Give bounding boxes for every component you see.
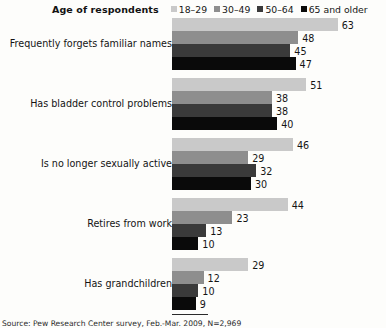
bar-group: Has grandchildren2912109 [0,258,386,310]
legend-label-65-and-older: 65 and older [309,4,368,15]
bar-group: Retires from work44231310 [0,198,386,250]
bar-row: 44 [172,198,386,211]
bar-value-label: 47 [300,58,312,69]
bar-value-label: 10 [202,238,214,249]
bar-row: 47 [172,57,386,70]
bar-value-label: 46 [297,139,309,150]
category-label: Has bladder control problems [30,99,172,110]
bar-row: 32 [172,164,386,177]
bar-50–64[interactable] [172,224,206,237]
bar-value-label: 38 [276,105,288,116]
legend-item-30-49: 30–49 [214,4,250,15]
bar-row: 48 [172,31,386,44]
bar-row: 63 [172,18,386,31]
bar-65-and-older[interactable] [172,297,196,310]
legend-title: Age of respondents [52,4,159,15]
bar-row: 46 [172,138,386,151]
bar-group-bars: 51383840 [172,78,386,130]
bar-value-label: 40 [281,118,293,129]
footer-rule [172,314,208,315]
category-label: Retires from work [87,219,172,230]
bar-row: 10 [172,237,386,250]
legend-swatch-30-49 [214,6,220,12]
bar-18–29[interactable] [172,138,293,151]
category-label: Is no longer sexually active [41,159,172,170]
chart-legend: Age of respondents 18–29 30–49 50–64 65 … [0,0,386,18]
legend-items: 18–29 30–49 50–64 65 and older [171,4,375,15]
bar-row: 38 [172,91,386,104]
bar-chart-plot: Frequently forgets familiar names6348454… [0,18,386,314]
bar-value-label: 30 [255,178,267,189]
bar-30–49[interactable] [172,211,232,224]
bar-row: 13 [172,224,386,237]
legend-swatch-50-64 [257,6,263,12]
bar-row: 23 [172,211,386,224]
bar-row: 40 [172,117,386,130]
bar-30–49[interactable] [172,271,204,284]
bar-group-bars: 44231310 [172,198,386,250]
bar-18–29[interactable] [172,198,288,211]
bar-value-label: 51 [310,79,322,90]
source-note: Source: Pew Research Center survey, Feb.… [2,319,241,328]
bar-30–49[interactable] [172,91,272,104]
bar-row: 30 [172,177,386,190]
bar-group-bars: 2912109 [172,258,386,310]
bar-65-and-older[interactable] [172,117,277,130]
legend-swatch-65-and-older [301,6,307,12]
bar-value-label: 12 [208,272,220,283]
legend-swatch-18-29 [171,6,177,12]
category-label: Has grandchildren [84,279,172,290]
legend-label-50-64: 50–64 [265,4,293,15]
bar-30–49[interactable] [172,31,298,44]
bar-50–64[interactable] [172,104,272,117]
bar-value-label: 13 [210,225,222,236]
bar-value-label: 45 [294,45,306,56]
bar-30–49[interactable] [172,151,248,164]
legend-label-18-29: 18–29 [179,4,207,15]
category-label: Frequently forgets familiar names [10,39,172,50]
bar-value-label: 63 [342,19,354,30]
bar-65-and-older[interactable] [172,57,296,70]
bar-row: 51 [172,78,386,91]
bar-value-label: 32 [260,165,272,176]
bar-50–64[interactable] [172,284,198,297]
bar-value-label: 29 [252,152,264,163]
bar-row: 9 [172,297,386,310]
bar-50–64[interactable] [172,44,290,57]
bar-group: Has bladder control problems51383840 [0,78,386,130]
bar-value-label: 38 [276,92,288,103]
bar-50–64[interactable] [172,164,256,177]
bar-18–29[interactable] [172,258,248,271]
legend-item-65-and-older: 65 and older [301,4,368,15]
bar-18–29[interactable] [172,18,338,31]
legend-label-30-49: 30–49 [222,4,250,15]
bar-group-bars: 63484547 [172,18,386,70]
bar-row: 10 [172,284,386,297]
bar-value-label: 29 [252,259,264,270]
bar-row: 45 [172,44,386,57]
bar-18–29[interactable] [172,78,306,91]
legend-item-50-64: 50–64 [257,4,293,15]
bar-row: 38 [172,104,386,117]
bar-group: Frequently forgets familiar names6348454… [0,18,386,70]
legend-item-18-29: 18–29 [171,4,207,15]
bar-value-label: 9 [200,298,206,309]
bar-65-and-older[interactable] [172,177,251,190]
bar-row: 29 [172,258,386,271]
bar-value-label: 23 [236,212,248,223]
bar-group-bars: 46293230 [172,138,386,190]
bar-value-label: 48 [302,32,314,43]
bar-row: 29 [172,151,386,164]
bar-65-and-older[interactable] [172,237,198,250]
bar-value-label: 44 [292,199,304,210]
bar-row: 12 [172,271,386,284]
bar-value-label: 10 [202,285,214,296]
bar-group: Is no longer sexually active46293230 [0,138,386,190]
